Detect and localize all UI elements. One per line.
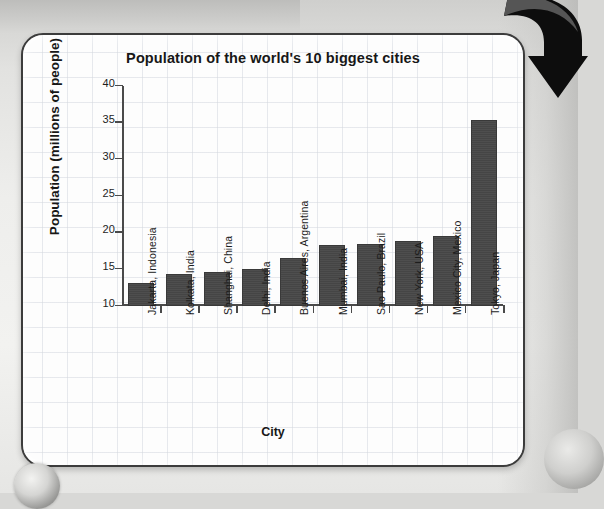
plot-area: 10152025303540 Jakarta, IndonesiaKolkata…: [122, 86, 503, 306]
y-axis-tick-label: 25: [103, 187, 115, 199]
x-axis-tick: [389, 305, 391, 313]
x-axis-category-label: Tokyo, Japan: [489, 252, 501, 315]
y-axis-tick: 20: [115, 231, 123, 233]
x-axis-tick: [313, 305, 315, 313]
x-axis-tick: [351, 305, 353, 313]
y-axis-label: Population (millions of people): [47, 33, 62, 252]
y-axis-tick-label: 30: [103, 150, 115, 162]
bar-chart: Population of the world's 10 biggest cit…: [23, 35, 523, 465]
chart-card: Population of the world's 10 biggest cit…: [21, 33, 525, 467]
page-shade-top: [0, 0, 300, 34]
bar-series: [122, 86, 503, 306]
y-axis-tick: 40: [115, 85, 123, 87]
x-axis-tick: [198, 305, 200, 313]
y-axis-tick: 35: [115, 121, 123, 123]
x-axis-category-label: Shanghai, China: [222, 236, 234, 315]
y-axis-tick-label: 35: [103, 113, 115, 125]
x-axis-tick: [236, 305, 238, 313]
y-axis-tick-label: 20: [103, 223, 115, 235]
x-axis-category-label: Jakarta, Indonesia: [146, 227, 158, 315]
chart-title: Population of the world's 10 biggest cit…: [23, 50, 523, 66]
x-axis-category-label: Delhi, India: [260, 261, 272, 315]
page-corner-dot-left: [14, 463, 60, 509]
y-axis-tick: 15: [115, 268, 123, 270]
y-axis-tick-label: 10: [103, 297, 115, 309]
y-axis-tick: 10: [115, 305, 123, 307]
x-axis-category-label: Mumbai, India: [337, 248, 349, 315]
page-corner-dot-right: [544, 429, 604, 489]
x-axis-tick: [274, 305, 276, 313]
x-axis-category-label: New York, USA: [413, 242, 425, 315]
x-axis-category-label: Kolkata, India: [184, 250, 196, 315]
x-axis-category-label: Buenos Aires, Argentina: [298, 201, 310, 315]
x-axis-label: City: [23, 425, 523, 439]
y-axis-tick-label: 15: [103, 260, 115, 272]
y-axis-tick-label: 40: [103, 77, 115, 89]
y-axis-tick: 25: [115, 195, 123, 197]
x-axis-tick: [465, 305, 467, 313]
x-axis-tick: [503, 305, 505, 313]
x-axis-category-label: Mexico City, Mexico: [451, 221, 463, 315]
x-axis-category-label: Sao Paulo, Brazil: [375, 233, 387, 315]
x-axis-tick: [160, 305, 162, 313]
x-axis-tick: [427, 305, 429, 313]
y-axis-tick: 30: [115, 158, 123, 160]
